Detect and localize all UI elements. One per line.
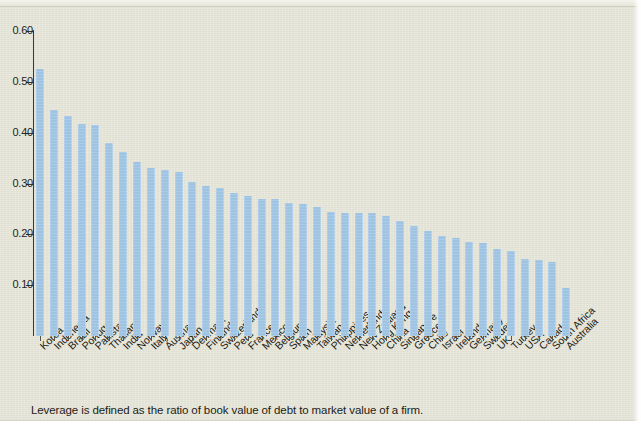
bar bbox=[355, 213, 363, 336]
bar bbox=[368, 213, 376, 336]
bar bbox=[521, 259, 529, 336]
bar bbox=[438, 236, 446, 336]
bar bbox=[465, 242, 473, 336]
page-bottom-edge bbox=[0, 421, 641, 433]
bar bbox=[78, 124, 86, 336]
bar bbox=[285, 203, 293, 336]
bar bbox=[119, 152, 127, 336]
bar-chart: 0.600.500.400.300.200.10 KoreaIndonesiaB… bbox=[0, 0, 641, 433]
bar bbox=[507, 251, 515, 336]
bar bbox=[271, 199, 279, 336]
bar bbox=[230, 193, 238, 336]
bar bbox=[175, 172, 183, 336]
bar bbox=[299, 204, 307, 336]
bar-series: KoreaIndonesiaBrazilPortugalPakistanThai… bbox=[0, 0, 641, 433]
bar bbox=[327, 212, 335, 336]
bar bbox=[452, 238, 460, 336]
bar bbox=[91, 125, 99, 336]
figure-page: 0.600.500.400.300.200.10 KoreaIndonesiaB… bbox=[0, 0, 641, 433]
bar bbox=[424, 231, 432, 336]
bar bbox=[188, 182, 196, 336]
bar bbox=[548, 262, 556, 336]
bar bbox=[313, 207, 321, 336]
bar bbox=[535, 260, 543, 336]
bar bbox=[105, 143, 113, 336]
bar bbox=[216, 188, 224, 336]
bar bbox=[133, 162, 141, 336]
bar bbox=[244, 196, 252, 336]
bar bbox=[479, 243, 487, 336]
bar bbox=[382, 216, 390, 336]
bar bbox=[396, 221, 404, 336]
bar bbox=[202, 186, 210, 336]
bar bbox=[493, 249, 501, 336]
bar bbox=[562, 288, 570, 336]
figure-caption: Leverage is defined as the ratio of book… bbox=[31, 404, 423, 416]
bar bbox=[147, 168, 155, 336]
bar bbox=[258, 199, 266, 336]
bar bbox=[36, 69, 44, 336]
bar bbox=[341, 213, 349, 336]
bar bbox=[410, 226, 418, 336]
bar bbox=[161, 170, 169, 336]
bar bbox=[50, 110, 58, 336]
page-right-edge bbox=[633, 0, 641, 433]
bar bbox=[64, 116, 72, 336]
